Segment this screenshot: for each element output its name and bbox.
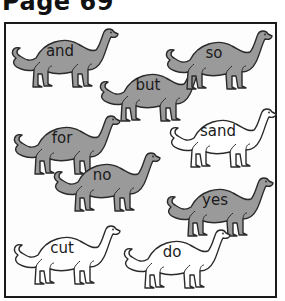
dinosaur-icon bbox=[10, 225, 122, 297]
page-title: Page 69 bbox=[2, 0, 114, 16]
dinosaur-card[interactable]: so bbox=[162, 30, 274, 102]
dinosaur-icon bbox=[50, 152, 162, 224]
dinosaur-word: no bbox=[93, 166, 112, 184]
dinosaur-word: cut bbox=[50, 239, 74, 257]
dinosaur-word: do bbox=[163, 243, 182, 261]
dinosaur-word: so bbox=[206, 44, 223, 62]
dinosaur-card[interactable]: sand bbox=[166, 108, 278, 180]
dinosaur-word: for bbox=[52, 129, 73, 147]
dinosaur-card[interactable]: cut bbox=[10, 225, 122, 297]
dinosaur-icon bbox=[120, 229, 232, 301]
dinosaur-word: sand bbox=[200, 122, 236, 140]
dinosaur-icon bbox=[162, 30, 274, 102]
dinosaur-word: but bbox=[136, 76, 161, 94]
dinosaur-icon bbox=[166, 108, 278, 180]
dinosaur-card[interactable]: do bbox=[120, 229, 232, 301]
dinosaur-card[interactable]: no bbox=[50, 152, 162, 224]
dinosaur-word: and bbox=[46, 42, 74, 60]
dinosaur-word: yes bbox=[202, 191, 228, 209]
